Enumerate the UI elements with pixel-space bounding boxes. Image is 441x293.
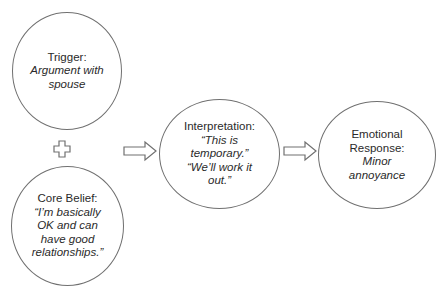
interpretation-node: Interpretation: “This is temporary.” “We… xyxy=(159,99,280,209)
emotional-response-node: Emotional Response: Minor annoyance xyxy=(318,101,436,209)
emotional-response-label: Emotional Response: xyxy=(350,128,405,155)
emotional-response-text: Minor annoyance xyxy=(349,155,405,182)
plus-icon xyxy=(53,140,71,158)
trigger-text: Argument with spouse xyxy=(30,64,104,91)
core-belief-text: “I’m basically OK and can have good rela… xyxy=(32,206,104,260)
core-belief-node: Core Belief: “I’m basically OK and can h… xyxy=(11,166,124,286)
cbt-diagram: Trigger: Argument with spouse Core Belie… xyxy=(0,0,441,293)
core-belief-label: Core Belief: xyxy=(37,192,97,206)
arrow-right-icon xyxy=(283,141,317,161)
trigger-label: Trigger: xyxy=(47,51,86,65)
arrow-right-icon xyxy=(123,141,157,161)
interpretation-label: Interpretation: xyxy=(184,120,255,134)
interpretation-text: “This is temporary.” “We’ll work it out.… xyxy=(187,134,252,188)
trigger-node: Trigger: Argument with spouse xyxy=(12,12,122,130)
